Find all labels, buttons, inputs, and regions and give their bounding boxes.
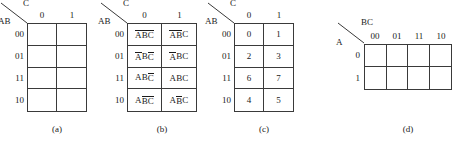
column-header-d-11: 11 <box>408 31 430 41</box>
kmap-cell-c-r1c1[interactable]: 3 <box>264 46 293 68</box>
kmap-cell-a-r0c0[interactable] <box>28 24 57 46</box>
kmap-cell-c-r0c1[interactable]: 1 <box>264 24 293 46</box>
row-label-a-00: 00 <box>4 29 24 39</box>
literal-A: A <box>169 73 176 83</box>
literal-A: A <box>135 72 142 82</box>
column-header-d-10: 10 <box>430 31 452 41</box>
kmap-grid-b: ABC ABC ABC ABC ABC ABC ABC ABC <box>127 23 197 112</box>
row-label-a-11: 11 <box>4 73 24 83</box>
literal-A: A <box>169 95 176 105</box>
literal-C: C <box>182 95 188 105</box>
literal-A-complement: A <box>169 52 176 62</box>
kmap-cell-b-r3c1[interactable]: ABC <box>162 89 196 111</box>
kmap-cell-a-r2c0[interactable] <box>28 68 57 90</box>
kmap-cell-a-r3c0[interactable] <box>28 89 57 111</box>
literal-C-complement: C <box>148 96 154 106</box>
column-variable-label-b: C <box>123 0 129 8</box>
kmap-grid-a <box>27 23 87 112</box>
boolean-expression: ABC <box>169 73 188 83</box>
row-label-c-10: 10 <box>211 95 231 105</box>
kmap-cell-a-r2c1[interactable] <box>57 68 86 90</box>
column-variable-label-c: C <box>230 0 236 8</box>
panel-caption-d: (d) <box>364 124 452 134</box>
row-label-b-10: 10 <box>104 95 124 105</box>
column-variable-label-d: BC <box>361 18 373 27</box>
row-variable-label-b: AB <box>98 17 111 26</box>
axis-corner-label-a: C AB <box>0 2 28 24</box>
kmap-cell-d-r1c1[interactable] <box>387 67 409 89</box>
literal-C-complement: C <box>148 73 154 83</box>
column-header-a-1: 1 <box>57 10 87 20</box>
literal-C: C <box>182 29 188 39</box>
kmap-cell-c-r3c0[interactable]: 4 <box>235 89 264 111</box>
kmap-cell-d-r1c0[interactable] <box>365 67 387 89</box>
boolean-expression: ABC <box>135 95 154 106</box>
kmap-cell-b-r0c1[interactable]: ABC <box>162 24 196 46</box>
kmap-cell-d-r1c2[interactable] <box>408 67 430 89</box>
kmap-cell-d-r0c1[interactable] <box>387 45 409 67</box>
column-header-b-1: 1 <box>162 10 197 20</box>
kmap-cell-d-r0c0[interactable] <box>365 45 387 67</box>
panel-caption-b: (b) <box>127 124 197 134</box>
kmap-cell-c-r3c1[interactable]: 5 <box>264 89 293 111</box>
kmap-cell-a-r1c0[interactable] <box>28 46 57 68</box>
kmap-cell-c-r2c1[interactable]: 7 <box>264 68 293 90</box>
kmap-cell-b-r2c0[interactable]: ABC <box>128 68 162 90</box>
boolean-expression: ABC <box>135 51 154 62</box>
axis-corner-label-c: C AB <box>207 2 235 24</box>
row-variable-label-a: AB <box>0 17 11 26</box>
kmap-cell-c-r1c0[interactable]: 2 <box>235 46 264 68</box>
column-header-c-1: 1 <box>264 10 294 20</box>
karnaugh-map-figure: C AB 0 1 00 01 11 10 (a) C AB <box>0 0 457 143</box>
panel-caption-a: (a) <box>27 124 87 134</box>
column-variable-label-a: C <box>23 0 29 8</box>
boolean-expression: ABC <box>169 51 188 62</box>
kmap-cell-d-r1c3[interactable] <box>430 67 452 89</box>
column-header-d-01: 01 <box>386 31 408 41</box>
literal-A: A <box>135 95 142 105</box>
kmap-cell-d-r0c2[interactable] <box>408 45 430 67</box>
kmap-cell-b-r1c1[interactable]: ABC <box>162 46 196 68</box>
axis-corner-label-d: BC A <box>337 22 365 44</box>
kmap-cell-a-r1c1[interactable] <box>57 46 86 68</box>
kmap-cell-c-r0c0[interactable]: 0 <box>235 24 264 46</box>
kmap-grid-d <box>364 44 452 90</box>
kmap-cell-c-r2c0[interactable]: 6 <box>235 68 264 90</box>
literal-C: C <box>182 73 188 83</box>
boolean-expression: ABC <box>169 29 188 40</box>
kmap-cell-a-r3c1[interactable] <box>57 89 86 111</box>
row-label-c-00: 00 <box>211 29 231 39</box>
kmap-cell-b-r2c1[interactable]: ABC <box>162 68 196 90</box>
column-header-b-0: 0 <box>127 10 162 20</box>
literal-A-complement: A <box>135 52 142 62</box>
row-label-c-11: 11 <box>211 73 231 83</box>
column-header-c-0: 0 <box>234 10 264 20</box>
row-label-d-0: 0 <box>344 50 360 60</box>
kmap-cell-b-r1c0[interactable]: ABC <box>128 46 162 68</box>
row-variable-label-c: AB <box>205 17 218 26</box>
row-label-d-1: 1 <box>344 73 360 83</box>
axis-corner-label-b: C AB <box>100 2 128 24</box>
row-variable-label-d: A <box>336 38 343 47</box>
literal-A-complement: A <box>135 30 142 40</box>
column-header-d-00: 00 <box>364 31 386 41</box>
kmap-cell-b-r3c0[interactable]: ABC <box>128 89 162 111</box>
row-label-b-01: 01 <box>104 51 124 61</box>
row-label-a-01: 01 <box>4 51 24 61</box>
kmap-cell-b-r0c0[interactable]: ABC <box>128 24 162 46</box>
kmap-grid-c: 0 1 2 3 6 7 4 5 <box>234 23 294 112</box>
column-header-a-0: 0 <box>27 10 57 20</box>
kmap-cell-a-r0c1[interactable] <box>57 24 86 46</box>
literal-C-complement: C <box>148 52 154 62</box>
literal-A-complement: A <box>169 30 176 40</box>
boolean-expression: ABC <box>169 95 188 106</box>
literal-C-complement: C <box>148 30 154 40</box>
row-label-c-01: 01 <box>211 51 231 61</box>
panel-caption-c: (c) <box>234 124 294 134</box>
kmap-cell-d-r0c3[interactable] <box>430 45 452 67</box>
boolean-expression: ABC <box>135 72 154 83</box>
literal-C: C <box>182 51 188 61</box>
boolean-expression: ABC <box>135 29 154 40</box>
row-label-b-11: 11 <box>104 73 124 83</box>
row-label-b-00: 00 <box>104 29 124 39</box>
